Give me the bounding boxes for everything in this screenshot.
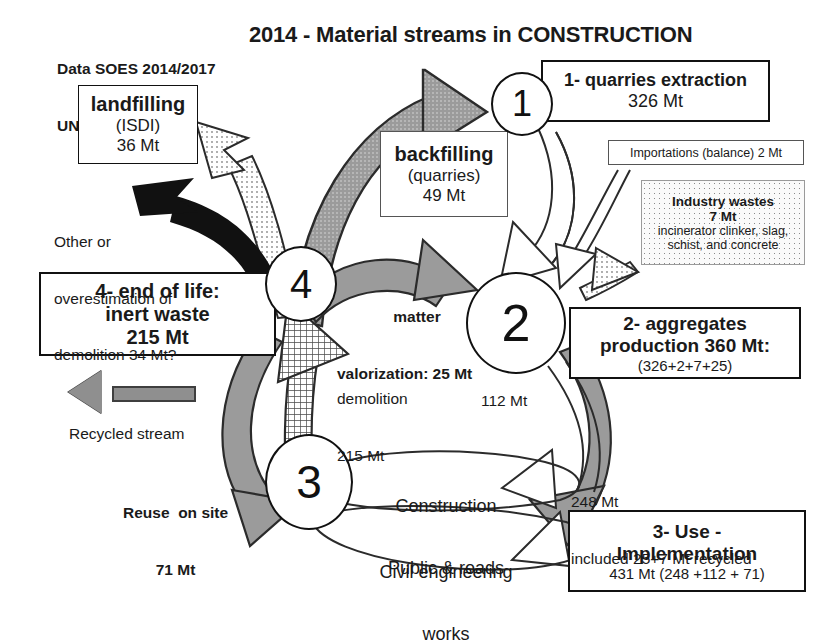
aggregates-value: production 360 Mt: xyxy=(600,335,770,357)
flow248-line-2: included 25+7 Mt recycled xyxy=(571,550,752,569)
node-3-label: 3 xyxy=(296,455,322,509)
page-title: 2014 - Material streams in CONSTRUCTION xyxy=(249,22,692,49)
box-importations: Importations (balance) 2 Mt xyxy=(608,140,804,165)
industry-wastes-desc-2: schist, and concrete xyxy=(667,238,778,252)
box-landfilling: landfilling (ISDI) 36 Mt xyxy=(78,85,198,164)
industry-wastes-desc-1: incinerator clinker, slag, xyxy=(658,224,789,238)
recycled-stream-legend-head xyxy=(68,370,102,414)
other-line-3: demolition 34 Mt? xyxy=(54,346,176,365)
landfilling-sub: (ISDI) xyxy=(116,116,160,136)
quarries-title: 1- quarries extraction xyxy=(564,70,747,91)
matter-line-1: matter xyxy=(337,308,497,327)
box-aggregates-production: 2- aggregates production 360 Mt: (326+2+… xyxy=(569,307,801,379)
node-1-label: 1 xyxy=(512,83,532,125)
backfilling-value: 49 Mt xyxy=(423,186,466,206)
flow-importations-to-2 xyxy=(570,170,630,262)
label-reuse-on-site: Reuse on site 71 Mt xyxy=(123,466,228,617)
reuse-line-1: Reuse on site xyxy=(123,504,228,523)
flow248-line-1: 248 Mt xyxy=(571,493,752,512)
aggregates-breakdown: (326+2+7+25) xyxy=(638,357,733,374)
label-248mt: 248 Mt included 25+7 Mt recycled xyxy=(571,455,752,606)
node-2-label: 2 xyxy=(502,293,531,353)
box-industry-wastes: Industry wastes 7 Mt incinerator clinker… xyxy=(641,180,805,265)
label-recycled-stream: Recycled stream xyxy=(69,425,184,444)
box-backfilling: backfilling (quarries) 49 Mt xyxy=(380,131,508,217)
other-line-1: Other or xyxy=(54,233,176,252)
quarries-value: 326 Mt xyxy=(628,91,683,112)
industry-wastes-title: Industry wastes xyxy=(672,194,774,209)
aggregates-value-bold: production 360 Mt: xyxy=(600,335,770,356)
node-4-label: 4 xyxy=(290,262,312,307)
industry-wastes-value: 7 Mt xyxy=(710,209,737,224)
public-line-2: works xyxy=(351,624,541,644)
landfilling-title: landfilling xyxy=(91,93,185,116)
arrowhead-importations xyxy=(556,244,596,288)
recycled-stream-legend-shaft xyxy=(112,386,196,402)
node-1: 1 xyxy=(491,72,553,136)
other-line-2: overestimation of xyxy=(54,290,176,309)
public-line-1: Public & roads xyxy=(351,558,541,580)
backfilling-sub: (quarries) xyxy=(408,166,481,186)
landfilling-value: 36 Mt xyxy=(117,136,160,156)
demolition-line-1: demolition xyxy=(337,390,408,409)
node-4: 4 xyxy=(265,246,337,322)
label-public-roads-works: Public & roads works xyxy=(351,514,541,644)
box-quarries-extraction: 1- quarries extraction 326 Mt xyxy=(541,60,770,122)
backfilling-title: backfilling xyxy=(395,143,494,166)
source-line-1: Data SOES 2014/2017 xyxy=(57,60,216,79)
reuse-line-2: 71 Mt xyxy=(123,561,228,580)
label-112mt: 112 Mt xyxy=(481,392,527,411)
importations-label: Importations (balance) 2 Mt xyxy=(630,146,782,160)
aggregates-title: 2- aggregates xyxy=(623,313,747,335)
